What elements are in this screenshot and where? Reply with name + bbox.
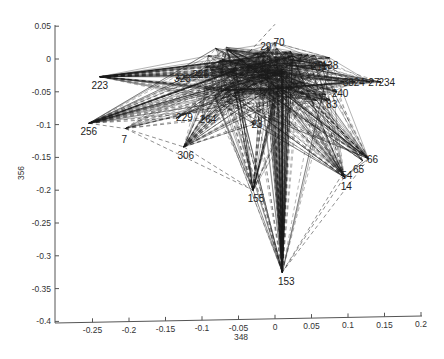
x-tick-label: 0.2 [415,319,427,329]
node-label-83: 83 [326,99,338,110]
y-tick-label: -0.05 [32,87,52,97]
node-label-323: 323 [174,73,191,84]
node-label-23: 23 [252,119,264,130]
node-label-7: 7 [122,134,128,145]
x-tick-label: 0.05 [303,321,320,331]
y-tick-label: -0.1 [36,120,51,130]
node-label-66: 66 [367,154,379,165]
x-tick-label: -0.1 [195,323,210,333]
graph-edge [227,101,253,190]
x-tick-label: 0.15 [376,320,393,330]
node-label-240: 240 [332,88,349,99]
x-tick-label: -0.2 [122,325,137,335]
node-label-153: 153 [278,276,295,287]
node-label-234: 234 [379,77,396,88]
graph-edge [282,177,344,272]
y-axis-label: 356 [16,166,26,180]
node-label-38: 38 [343,77,355,88]
y-tick-label: -0.35 [32,284,52,294]
x-tick-label: 0 [273,322,278,332]
y-tick-label: -0.15 [32,152,52,162]
node-label-65: 65 [353,164,365,175]
node-label-264: 264 [200,114,217,125]
graph-edge [125,129,183,147]
node-label-29: 29 [260,41,272,52]
node-label-211: 211 [311,61,327,72]
node-label-306: 306 [177,150,194,161]
node-label-229: 229 [176,112,193,123]
y-tick-label: -0.4 [36,316,51,326]
x-ticks: -0.25-0.2-0.15-0.1-0.0500.050.10.150.2 [83,312,427,335]
node-label-70: 70 [273,37,285,48]
y-tick-label: -0.3 [36,251,51,261]
node-label-223: 223 [91,80,108,91]
x-tick-label: 0.1 [342,320,354,330]
node-label-155: 155 [248,193,265,204]
network-scatter-chart: 2232567306264229226323231551531454656624… [0,0,444,359]
y-tick-label: 0.05 [34,21,51,31]
y-tick-label: 0 [46,54,51,64]
x-tick-label: -0.15 [156,324,176,334]
node-label-24: 24 [354,77,366,88]
node-label-226: 226 [192,69,209,80]
node-label-14: 14 [341,181,353,192]
x-tick-label: -0.05 [229,323,249,333]
y-tick-label: -0.25 [32,218,52,228]
x-axis-label: 348 [234,332,248,342]
node-label-256: 256 [81,126,98,137]
y-tick-label: -0.2 [36,185,51,195]
x-tick-label: -0.25 [83,325,103,335]
node-label-54: 54 [341,170,353,181]
